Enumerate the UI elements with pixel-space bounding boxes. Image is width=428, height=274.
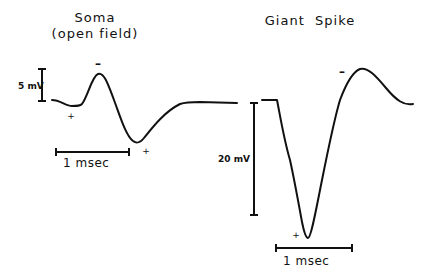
soma-title: Soma [75, 10, 116, 25]
soma-time-scale-label: 1 msec [63, 156, 109, 170]
giant-spike-title: Giant Spike [265, 13, 355, 28]
giant-spike-time-scale-bar [276, 244, 352, 252]
giant-spike-trough-polarity: + [292, 230, 300, 240]
soma-trough-polarity: + [142, 146, 150, 156]
giant-spike-voltage-scale-label: 20 mV [218, 154, 250, 164]
soma-panel: Soma (open field) 5 mV – + + 1 msec [18, 10, 237, 170]
soma-peak-polarity: – [95, 57, 101, 71]
giant-spike-peak-polarity: – [339, 65, 345, 79]
giant-spike-waveform [262, 69, 413, 238]
soma-subtitle: (open field) [52, 26, 139, 41]
waveform-diagram: Soma (open field) 5 mV – + + 1 msec Gian… [0, 0, 428, 274]
giant-spike-voltage-scale-bar [250, 103, 258, 215]
soma-time-scale-bar [56, 148, 129, 156]
soma-voltage-scale-label: 5 mV [18, 81, 44, 91]
giant-spike-time-scale-label: 1 msec [283, 254, 329, 268]
soma-waveform [52, 74, 237, 143]
soma-dip-polarity: + [67, 111, 75, 121]
diagram-canvas: Soma (open field) 5 mV – + + 1 msec Gian… [0, 0, 428, 274]
giant-spike-panel: Giant Spike 20 mV – + 1 msec [218, 13, 413, 268]
